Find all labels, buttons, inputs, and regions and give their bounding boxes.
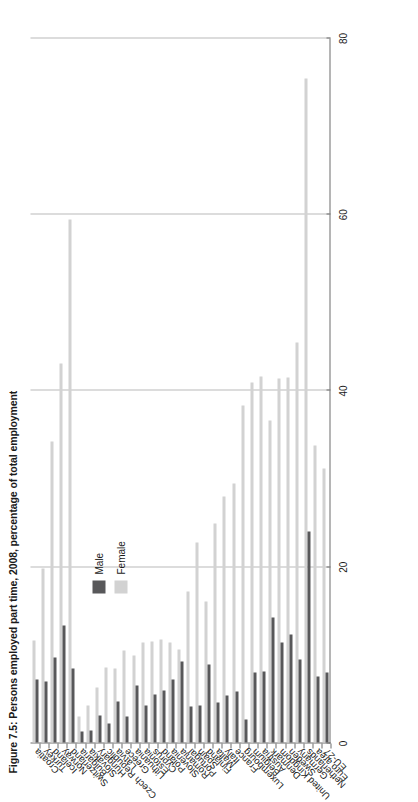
axis-tick-60 (326, 213, 330, 214)
bar-male (244, 719, 247, 742)
bar-group (275, 37, 284, 742)
bar-male (171, 679, 174, 742)
bar-group (148, 37, 157, 742)
bar-male (144, 705, 147, 742)
page-title: Figure 7.5: Persons employed part time, … (6, 390, 18, 773)
bar-group (239, 37, 248, 742)
bar-male (253, 672, 256, 742)
bar-male (225, 695, 228, 742)
axis-tick-40 (326, 390, 330, 391)
bar-group (312, 37, 321, 742)
bar-group (303, 37, 312, 742)
bar-male (207, 664, 210, 742)
axis-tick-label-60: 60 (337, 209, 348, 220)
bar-male (153, 694, 156, 742)
bar-group (203, 37, 212, 742)
bar-group (175, 37, 184, 742)
bar-group (130, 37, 139, 742)
bar-male (89, 730, 92, 742)
axis-tick-label-0: 0 (337, 740, 348, 746)
bar-male (98, 715, 101, 742)
bar-male (235, 691, 238, 742)
bar-male (189, 706, 192, 742)
bar-male (298, 659, 301, 742)
bar-group (248, 37, 257, 742)
bar-male (180, 661, 183, 742)
bar-group (166, 37, 175, 742)
bar-male (53, 657, 56, 742)
legend-swatch-female (114, 580, 127, 593)
bar-male (135, 685, 138, 742)
bar-group (221, 37, 230, 742)
bar-male (316, 676, 319, 742)
bar-male (289, 634, 292, 742)
bar-group (212, 37, 221, 742)
bar-male (125, 716, 128, 742)
bar-group (75, 37, 84, 742)
bar-male (116, 701, 119, 742)
bar-male (80, 731, 83, 742)
bar-male (62, 625, 65, 742)
axis-tick-20 (326, 566, 330, 567)
bar-group (194, 37, 203, 742)
bar-group (139, 37, 148, 742)
axis-tick-label-20: 20 (337, 561, 348, 572)
bar-male (71, 668, 74, 742)
bar-group (266, 37, 275, 742)
bar-group (230, 37, 239, 742)
bar-male (307, 531, 310, 742)
axis-tick-label-40: 40 (337, 385, 348, 396)
bar-group (257, 37, 266, 742)
bar-female (68, 219, 71, 742)
bar-group (30, 37, 39, 742)
bar-male (44, 681, 47, 742)
bar-male (325, 672, 328, 742)
bar-male (216, 702, 219, 742)
axis-tick-label-80: 80 (337, 32, 348, 43)
legend-swatch-male (92, 580, 105, 593)
bar-group (103, 37, 112, 742)
bar-male (35, 679, 38, 742)
bar-group (39, 37, 48, 742)
bar-male (271, 617, 274, 742)
chart-plot-area: 020406080 EU-27Euro areaNetherlandsGerma… (30, 38, 330, 743)
bar-group (48, 37, 57, 742)
bar-group (66, 37, 75, 742)
legend-item-male[interactable]: Male (92, 552, 105, 593)
bar-group (85, 37, 94, 742)
bar-group (185, 37, 194, 742)
legend-label-male: Male (93, 552, 104, 574)
bar-group (285, 37, 294, 742)
bar-male (280, 642, 283, 742)
bar-group (294, 37, 303, 742)
legend-label-female: Female (115, 541, 126, 574)
bar-group (157, 37, 166, 742)
bar-male (162, 690, 165, 742)
bar-male (198, 705, 201, 742)
legend-item-female[interactable]: Female (114, 541, 127, 593)
bar-male (107, 723, 110, 742)
bar-group (112, 37, 121, 742)
bar-male (262, 671, 265, 742)
bar-group (94, 37, 103, 742)
bar-group (121, 37, 130, 742)
bar-female (241, 405, 244, 742)
axis-tick-0 (326, 742, 330, 743)
axis-tick-80 (326, 37, 330, 38)
bar-group (57, 37, 66, 742)
